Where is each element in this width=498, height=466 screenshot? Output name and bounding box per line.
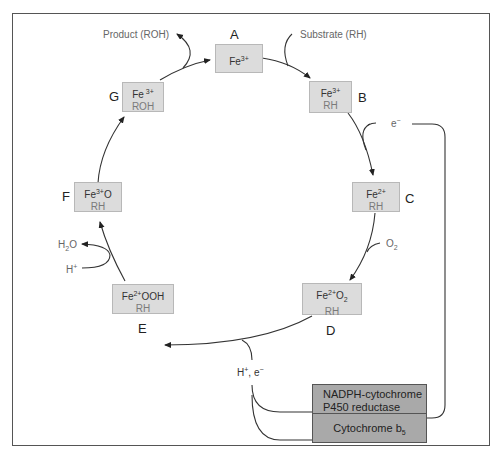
state-box-b: Fe3+ RH — [309, 81, 352, 113]
water-output-label: H2O — [58, 239, 77, 252]
state-box-a: Fe3+ — [215, 44, 263, 73]
state-box-g: Fe 3+ ROH — [122, 82, 164, 112]
proton-electron-input-label: H+, e− — [237, 366, 264, 378]
state-label-e: E — [138, 321, 147, 336]
state-label-d: D — [326, 323, 335, 338]
state-box-f: Fe3+O RH — [74, 182, 122, 212]
cytochrome-b5-box: Cytochrome b5 — [312, 413, 427, 443]
state-box-c: Fe2+ RH — [352, 182, 400, 212]
substrate-input-label: Substrate (RH) — [300, 29, 367, 40]
state-label-a: A — [230, 27, 239, 42]
state-label-b: B — [358, 90, 367, 105]
state-box-e: Fe2+OOH RH — [112, 284, 174, 314]
oxygen-input-label: O2 — [386, 238, 398, 251]
state-label-g: G — [109, 89, 119, 104]
state-label-c: C — [405, 191, 414, 206]
state-label-f: F — [62, 189, 70, 204]
state-box-d: Fe2+O2 RH — [302, 283, 362, 315]
nadph-reductase-box: NADPH-cytochrome P450 reductase — [312, 384, 427, 414]
product-output-label: Product (ROH) — [103, 29, 169, 40]
proton-input-label: H+ — [66, 263, 77, 275]
electron-input-label: e− — [391, 117, 401, 129]
